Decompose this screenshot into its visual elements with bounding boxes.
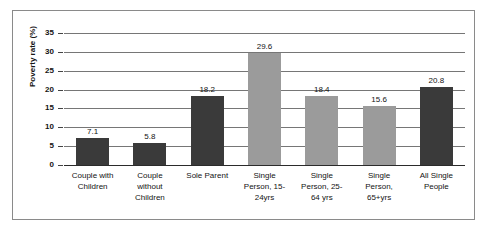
y-tick-mark	[58, 52, 63, 53]
bar-value-label: 15.6	[349, 95, 409, 104]
y-axis-title: Poverty rate (%)	[28, 0, 37, 117]
x-category-label-line: Couple with	[64, 170, 122, 181]
y-tick-label: 35	[28, 29, 54, 37]
x-category-label-line: Person, 25-	[293, 181, 351, 192]
bar-value-label: 18.2	[177, 85, 237, 94]
bar-value-label: 5.8	[120, 132, 180, 141]
x-category-label-line: Children	[64, 181, 122, 192]
x-category-label: SinglePerson,65+yrs	[350, 170, 408, 203]
y-tick-label: 25	[28, 67, 54, 75]
y-tick-label: 20	[28, 86, 54, 94]
bar	[76, 138, 109, 165]
y-tick-label: 5	[28, 142, 54, 150]
x-category-label-line: 64 yrs	[293, 192, 351, 203]
bar-value-label: 20.8	[406, 76, 466, 85]
x-category-label-line: Single	[293, 170, 351, 181]
y-tick-label: 15	[28, 104, 54, 112]
bar-value-label: 29.6	[235, 42, 295, 51]
bar	[191, 96, 224, 165]
x-category-label: Couple withChildren	[64, 170, 122, 192]
gridline	[64, 33, 465, 34]
bar-value-label: 7.1	[63, 127, 123, 136]
x-category-label-line: 24yrs	[236, 192, 294, 203]
x-category-label-line: All Single	[407, 170, 465, 181]
bar	[133, 143, 166, 165]
x-category-label-line: Single	[236, 170, 294, 181]
y-tick-label: 0	[28, 161, 54, 169]
y-tick-mark	[58, 33, 63, 34]
y-tick-label: 30	[28, 48, 54, 56]
y-tick-mark	[58, 165, 63, 166]
poverty-rate-bar-chart: Poverty rate (%) 05101520253035 7.15.818…	[0, 0, 490, 235]
x-category-label: Sole Parent	[178, 170, 236, 181]
x-category-label-line: Couple	[121, 170, 179, 181]
y-tick-mark	[58, 108, 63, 109]
x-category-label-line: Sole Parent	[178, 170, 236, 181]
y-tick-mark	[58, 71, 63, 72]
x-category-label-line: Single	[350, 170, 408, 181]
bar	[305, 96, 338, 165]
y-tick-label: 10	[28, 123, 54, 131]
y-tick-mark	[58, 90, 63, 91]
bar	[363, 106, 396, 165]
x-category-label-line: 65+yrs	[350, 192, 408, 203]
x-category-label: SinglePerson, 15-24yrs	[236, 170, 294, 203]
y-tick-mark	[58, 146, 63, 147]
bar	[248, 53, 281, 165]
x-category-label-line: Children	[121, 192, 179, 203]
x-category-label: CouplewithoutChildren	[121, 170, 179, 203]
x-category-label: All SinglePeople	[407, 170, 465, 192]
bar	[420, 87, 453, 165]
gridline	[64, 165, 465, 166]
x-category-label: SinglePerson, 25-64 yrs	[293, 170, 351, 203]
x-category-label-line: Person,	[350, 181, 408, 192]
x-category-label-line: People	[407, 181, 465, 192]
x-category-label-line: without	[121, 181, 179, 192]
bar-value-label: 18.4	[292, 85, 352, 94]
x-category-label-line: Person, 15-	[236, 181, 294, 192]
